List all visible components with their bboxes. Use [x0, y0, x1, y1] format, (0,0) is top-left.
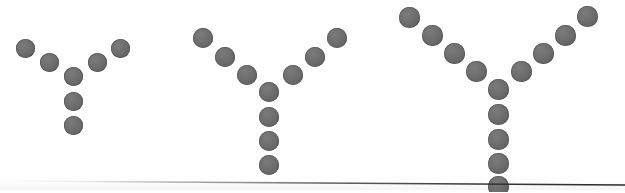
dot-figure-3-stem-2 [488, 129, 509, 150]
figure-3 [0, 0, 625, 192]
dot-figure-3-stem-1 [488, 104, 509, 125]
dot-figure-3-right-arm-outer [577, 6, 598, 27]
figure-canvas [0, 0, 625, 192]
dot-figure-3-left-arm-inner [466, 61, 487, 82]
dot-figure-3-right-arm-upper-mid [555, 25, 576, 46]
dot-figure-3-left-arm-lower-mid [444, 43, 465, 64]
dot-figure-3-junction [488, 79, 509, 100]
dot-figure-3-left-arm-upper-mid [422, 25, 443, 46]
dot-figure-3-stem-3 [488, 153, 509, 174]
dot-figure-3-stem-4 [488, 176, 509, 193]
dot-figure-3-right-arm-lower-mid [533, 43, 554, 64]
dot-figure-3-left-arm-outer [399, 7, 420, 28]
dot-figure-3-right-arm-inner [511, 61, 532, 82]
